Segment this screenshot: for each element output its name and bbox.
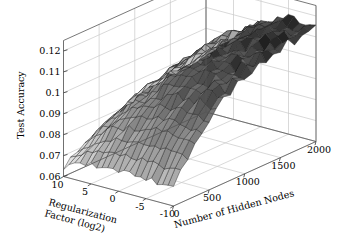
y-tick-label: 0: [109, 193, 115, 204]
z-tick-label: 0.08: [39, 129, 60, 140]
x-tick-label: 2000: [307, 144, 331, 155]
y-tick-mark: [115, 191, 118, 193]
surface-plot-canvas: 0.060.070.080.090.10.110.121050-5-100500…: [0, 0, 344, 251]
x-axis-title: Number of Hidden Nodes: [173, 187, 296, 230]
y-tick-label: -5: [135, 201, 144, 212]
y-tick-mark: [88, 184, 91, 186]
z-tick-label: 0.12: [39, 45, 60, 56]
z-axis-title: Test Accuracy: [15, 71, 26, 139]
z-tick-label: 0.09: [39, 108, 60, 119]
z-tick-label: 0.07: [39, 150, 60, 161]
figure-3d-surface-plot: 0.060.070.080.090.10.110.121050-5-100500…: [0, 0, 344, 251]
x-tick-label: 500: [203, 192, 221, 203]
z-tick-label: 0.1: [45, 87, 60, 98]
y-tick-label: 5: [82, 186, 88, 197]
y-tick-label: 10: [51, 179, 63, 190]
z-tick-label: 0.11: [39, 66, 60, 77]
y-axis-title: RegularizationFactor (log2): [43, 196, 118, 234]
x-tick-label: 1500: [271, 160, 295, 171]
x-tick-label: 1000: [236, 176, 260, 187]
